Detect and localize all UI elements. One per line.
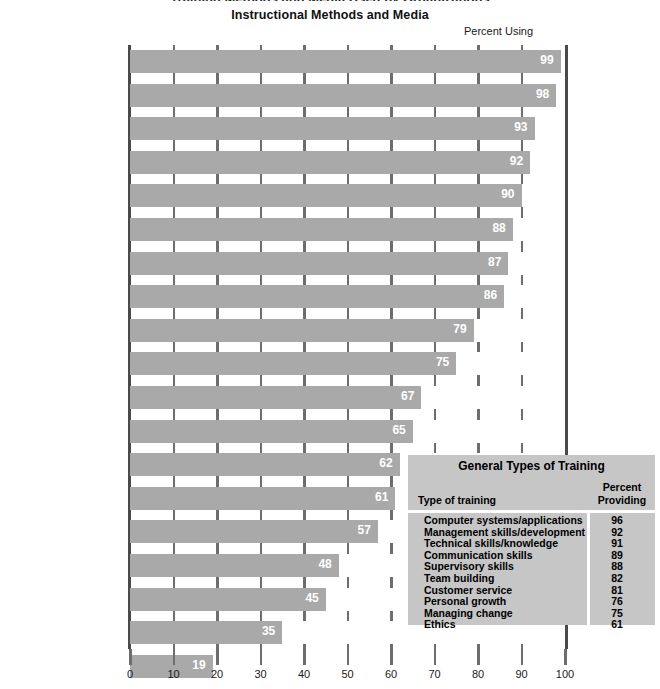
table-row: Personal growth76 <box>408 595 655 607</box>
x-axis-tick-label: 70 <box>428 668 440 680</box>
table-column-header-type: Type of training <box>418 494 496 506</box>
gridline-tick <box>173 207 176 218</box>
gridline-tick <box>347 73 350 84</box>
gridline-tick <box>260 611 263 622</box>
gridline-tick <box>521 308 524 319</box>
gridline-tick <box>477 375 480 386</box>
gridline-tick <box>216 611 219 622</box>
gridline-tick <box>390 375 393 386</box>
bar-row: 75Non-computerized self-study <box>130 352 565 375</box>
table-cell-type: Communication skills <box>424 549 533 561</box>
table-cell-type: Computer systems/applications <box>424 514 583 526</box>
gridline-tick <box>390 577 393 588</box>
gridline-tick <box>434 241 437 252</box>
gridline-tick <box>390 611 393 622</box>
gridline-tick <box>347 308 350 319</box>
gridline-tick <box>477 275 480 286</box>
bar-value-label: 35 <box>130 624 275 638</box>
gridline-tick <box>303 174 306 185</box>
gridline-tick <box>173 577 176 588</box>
table-cell-type: Managing change <box>424 607 513 619</box>
x-axis-tick-label: 90 <box>515 668 527 680</box>
gridline-tick <box>303 611 306 622</box>
x-axis-tick <box>477 649 480 665</box>
gridline-tick <box>347 543 350 554</box>
gridline-tick <box>173 107 176 118</box>
bar-row: 65Games/simulations (non computer-based) <box>130 420 565 443</box>
gridline-tick <box>173 375 176 386</box>
x-axis-tick-label: 10 <box>167 668 179 680</box>
bar-value-label: 92 <box>130 154 523 168</box>
table-row: Computer systems/applications96 <box>408 514 655 526</box>
table-cell-type: Ethics <box>424 618 456 630</box>
gridline-tick <box>216 543 219 554</box>
table-row: Technical skills/knowledge91 <box>408 537 655 549</box>
gridline-tick <box>173 611 176 622</box>
table-cell-type: Management skills/development <box>424 526 585 538</box>
gridline-tick <box>216 107 219 118</box>
gridline-tick <box>260 275 263 286</box>
gridline-tick <box>477 207 480 218</box>
gridline-tick <box>260 140 263 151</box>
gridline-tick <box>303 207 306 218</box>
gridline-tick <box>521 375 524 386</box>
gridline-tick <box>173 342 176 353</box>
gridline-tick <box>260 543 263 554</box>
gridline-tick <box>260 510 263 521</box>
bar-row: 88Videotapes <box>130 218 565 241</box>
gridline-tick <box>173 174 176 185</box>
general-types-of-training-table: General Types of Training Type of traini… <box>408 455 655 625</box>
gridline-tick <box>216 275 219 286</box>
gridline-tick <box>347 275 350 286</box>
chart-title: Instructional Methods and Media <box>0 8 660 22</box>
gridline-tick <box>521 174 524 185</box>
gridline-tick <box>216 510 219 521</box>
gridline-tick <box>434 409 437 420</box>
gridline-tick <box>216 375 219 386</box>
gridline-tick <box>434 174 437 185</box>
gridline-tick <box>173 510 176 521</box>
bar-row: 87Self-Study, Web-based <box>130 252 565 275</box>
gridline-tick <box>390 543 393 554</box>
gridline-tick <box>347 342 350 353</box>
gridline-tick <box>260 73 263 84</box>
gridline-tick <box>173 409 176 420</box>
gridline-tick <box>477 409 480 420</box>
gridline-tick <box>390 342 393 353</box>
bar-row: 98Workbooks/manuals <box>130 84 565 107</box>
gridline-tick <box>390 107 393 118</box>
gridline-tick <box>173 140 176 151</box>
gridline-tick <box>390 476 393 487</box>
gridline-tick <box>303 342 306 353</box>
gridline-tick <box>347 207 350 218</box>
table-cell-percent: 96 <box>589 514 645 526</box>
gridline-tick <box>303 73 306 84</box>
bar-value-label: 87 <box>130 255 501 269</box>
gridline-tick <box>347 611 350 622</box>
gridline-tick <box>303 241 306 252</box>
gridline-tick <box>173 275 176 286</box>
gridline-tick <box>303 577 306 588</box>
bar-value-label: 93 <box>130 120 528 134</box>
gridline-tick <box>216 443 219 454</box>
table-cell-percent: 75 <box>589 607 645 619</box>
table-cell-percent: 81 <box>589 584 645 596</box>
gridline-tick <box>260 174 263 185</box>
gridline-tick <box>347 577 350 588</box>
gridline-tick <box>260 308 263 319</box>
gridline-tick <box>390 409 393 420</box>
bar-row: 93Internet/Intranet/Extranet <box>130 117 565 140</box>
table-cell-percent: 89 <box>589 549 645 561</box>
table-title: General Types of Training <box>408 459 655 473</box>
gridline-tick <box>173 543 176 554</box>
bar-value-label: 86 <box>130 288 497 302</box>
gridline-tick <box>173 476 176 487</box>
gridline-tick <box>434 140 437 151</box>
gridline-tick <box>216 409 219 420</box>
gridline-tick <box>477 107 480 118</box>
gridline-tick <box>173 308 176 319</box>
gridline-tick <box>303 140 306 151</box>
gridline-tick <box>347 174 350 185</box>
gridline-tick <box>216 73 219 84</box>
gridline-tick <box>303 107 306 118</box>
